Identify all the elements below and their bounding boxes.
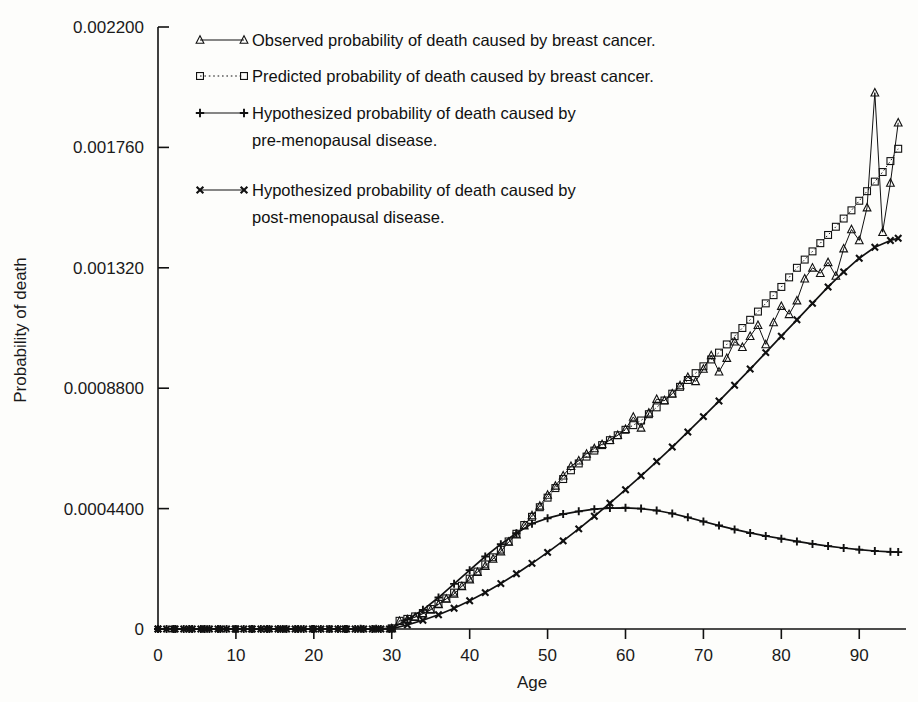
y-axis-tick-label: 0.0004400 bbox=[64, 500, 144, 519]
legend-item-label: Observed probability of death caused by … bbox=[252, 31, 656, 49]
x-axis-tick-label: 0 bbox=[153, 646, 162, 665]
chart-figure: 00.00044000.00088000.0013200.0017600.002… bbox=[0, 0, 918, 702]
x-axis-tick-label: 10 bbox=[226, 646, 245, 665]
y-axis-tick-label: 0.001760 bbox=[73, 138, 144, 157]
y-axis-tick-label: 0.001320 bbox=[73, 259, 144, 278]
x-axis-tick-label: 50 bbox=[538, 646, 557, 665]
x-axis-tick-label: 20 bbox=[304, 646, 323, 665]
legend-item-label-continued: post-menopausal disease. bbox=[252, 208, 445, 226]
x-axis-tick-label: 80 bbox=[772, 646, 791, 665]
y-axis-tick-label: 0.0008800 bbox=[64, 379, 144, 398]
x-axis-tick-label: 40 bbox=[460, 646, 479, 665]
legend-item-label: Predicted probability of death caused by… bbox=[252, 67, 654, 85]
y-axis-tick-label: 0.002200 bbox=[73, 18, 144, 37]
y-axis-title: Probability of death bbox=[11, 257, 30, 403]
y-axis-tick-label: 0 bbox=[135, 620, 144, 639]
legend-item-label: Hypothesized probability of death caused… bbox=[252, 104, 577, 122]
legend-item-label: Hypothesized probability of death caused… bbox=[252, 181, 577, 199]
x-axis-title: Age bbox=[517, 673, 547, 692]
x-axis-tick-label: 70 bbox=[694, 646, 713, 665]
x-axis-tick-label: 90 bbox=[850, 646, 869, 665]
probability-of-death-vs-age-chart: 00.00044000.00088000.0013200.0017600.002… bbox=[0, 0, 918, 702]
x-axis-tick-label: 30 bbox=[382, 646, 401, 665]
x-axis-tick-label: 60 bbox=[616, 646, 635, 665]
legend-item-label-continued: pre-menopausal disease. bbox=[252, 131, 437, 149]
